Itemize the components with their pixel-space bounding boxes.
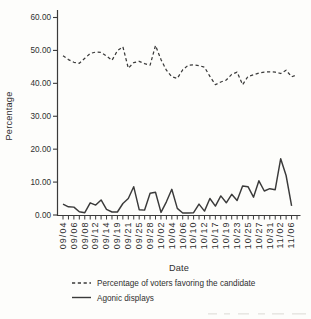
x-tick-label: 09/06 [69,222,79,250]
legend-item-voters: Percentage of voters favoring the candid… [72,279,256,288]
x-tick-label: 10/23 [232,222,242,250]
x-tick-label: 10/02 [156,222,166,250]
x-tick-label: 09/19 [112,222,122,250]
x-tick-label: 10/31 [265,222,275,250]
x-tick-label: 10/19 [221,222,231,250]
line-chart-figure: 0.0010.0020.0030.0040.0050.0060.00 09/04… [0,0,311,319]
y-axis-label: Percentage [4,92,14,141]
cropped-print-text-artifact [208,313,306,315]
x-tick-label: 10/27 [254,222,264,250]
x-tick-label: 09/08 [80,222,90,250]
x-tick-label: 10/12 [199,222,209,250]
legend: Percentage of voters favoring the candid… [72,279,256,303]
series-lines [63,46,297,214]
y-tick-label: 50.00 [31,46,52,55]
x-axis-tick-labels: 09/0409/0609/0809/1209/1409/1909/2109/25… [58,222,297,250]
y-axis-ticks [53,18,58,216]
legend-item-agonic: Agonic displays [72,294,154,303]
y-tick-label: 0.00 [35,211,51,220]
y-tick-label: 10.00 [31,178,52,187]
y-tick-label: 20.00 [31,145,52,154]
x-tick-label: 09/25 [134,222,144,250]
x-tick-label: 11/02 [275,222,285,249]
x-tick-label: 09/21 [123,222,133,250]
x-tick-label: 10/25 [243,222,253,250]
x-axis-label: Date [169,263,189,273]
x-tick-label: 10/10 [188,222,198,250]
x-tick-label: 10/17 [210,222,220,250]
chart-svg: 0.0010.0020.0030.0040.0050.0060.00 09/04… [0,0,311,319]
x-tick-label: 10/04 [167,222,177,250]
y-tick-label: 40.00 [31,79,52,88]
series-line-agonic [63,159,292,213]
x-tick-label: 10/06 [178,222,188,250]
legend-label-voters: Percentage of voters favoring the candid… [97,279,256,288]
x-tick-label: 09/28 [145,222,155,250]
x-tick-label: 09/12 [90,222,100,250]
legend-label-agonic: Agonic displays [97,294,154,303]
series-line-voters [63,46,297,85]
y-tick-label: 30.00 [31,112,52,121]
y-tick-label: 60.00 [31,13,52,22]
x-tick-label: 09/14 [101,222,111,250]
x-axis-ticks [63,216,297,220]
y-axis-tick-labels: 0.0010.0020.0030.0040.0050.0060.00 [31,13,52,220]
x-tick-label: 11/06 [286,222,296,249]
x-tick-label: 09/04 [58,222,68,250]
